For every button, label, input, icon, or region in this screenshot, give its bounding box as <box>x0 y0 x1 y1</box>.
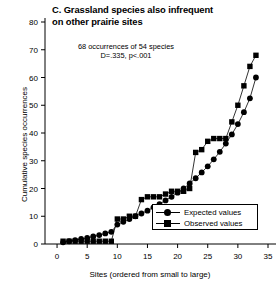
svg-text:15: 15 <box>143 252 152 261</box>
legend-box: Expected values Observed values <box>152 204 258 230</box>
svg-text:50: 50 <box>29 101 38 110</box>
svg-text:25: 25 <box>203 252 212 261</box>
legend-item-expected: Expected values <box>156 207 254 218</box>
svg-text:70: 70 <box>29 46 38 55</box>
figure-panel-c: C. Grassland species also infrequent on … <box>0 0 279 289</box>
legend-marker-circle-icon <box>156 208 180 217</box>
svg-text:20: 20 <box>29 185 38 194</box>
legend-item-observed: Observed values <box>156 218 254 229</box>
svg-text:10: 10 <box>29 212 38 221</box>
svg-text:0: 0 <box>55 252 60 261</box>
svg-text:30: 30 <box>29 157 38 166</box>
svg-text:5: 5 <box>85 252 90 261</box>
legend-marker-square-icon <box>156 219 180 228</box>
svg-text:40: 40 <box>29 129 38 138</box>
svg-text:30: 30 <box>233 252 242 261</box>
svg-text:0: 0 <box>34 240 39 249</box>
svg-text:80: 80 <box>29 18 38 27</box>
plot-area: 0102030405060708005101520253035 <box>0 0 279 289</box>
svg-text:10: 10 <box>113 252 122 261</box>
svg-text:20: 20 <box>173 252 182 261</box>
svg-text:60: 60 <box>29 74 38 83</box>
svg-text:35: 35 <box>264 252 273 261</box>
legend-label-expected: Expected values <box>180 208 241 217</box>
legend-label-observed: Observed values <box>180 219 243 228</box>
